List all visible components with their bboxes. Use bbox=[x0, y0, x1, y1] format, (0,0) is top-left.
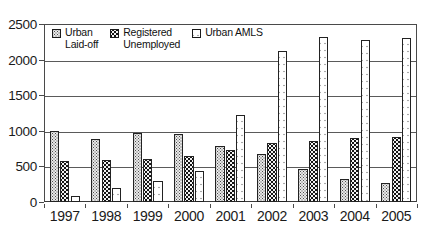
bar-group bbox=[376, 24, 417, 202]
bar bbox=[50, 131, 59, 202]
bar bbox=[298, 169, 307, 202]
x-tick-label: 1997 bbox=[50, 208, 80, 224]
x-tick-label: 2000 bbox=[174, 208, 204, 224]
x-axis: 199719981999200020012002200320042005 bbox=[44, 204, 417, 234]
bar bbox=[361, 40, 370, 202]
bar bbox=[133, 133, 142, 202]
y-tick-mark bbox=[39, 202, 44, 203]
y-tick-label: 2500 bbox=[8, 17, 37, 32]
x-tick-mark bbox=[293, 204, 294, 208]
bar bbox=[236, 115, 245, 202]
bar bbox=[278, 51, 287, 202]
bar-chart: 05001000150020002500 1997199819992000200… bbox=[0, 0, 422, 238]
x-tick-label: 2004 bbox=[340, 208, 370, 224]
x-tick-mark bbox=[44, 204, 45, 208]
y-tick-label: 500 bbox=[15, 159, 37, 174]
white-dotted-swatch bbox=[192, 29, 201, 38]
bar-group bbox=[44, 24, 85, 202]
light-stipple-swatch bbox=[52, 29, 61, 38]
bar-group bbox=[85, 24, 126, 202]
bar bbox=[309, 141, 318, 202]
bar bbox=[257, 154, 266, 202]
bar bbox=[319, 37, 328, 202]
legend-label: Urban Laid-off bbox=[65, 27, 98, 50]
x-tick-mark bbox=[127, 204, 128, 208]
bar-group bbox=[293, 24, 334, 202]
bar-group bbox=[127, 24, 168, 202]
x-tick-label: 2002 bbox=[257, 208, 287, 224]
y-tick-label: 1500 bbox=[8, 88, 37, 103]
bars-layer bbox=[44, 24, 417, 202]
x-tick-mark bbox=[168, 204, 169, 208]
bar bbox=[402, 38, 411, 202]
dark-dotted-swatch bbox=[110, 29, 119, 38]
legend-label: Urban AMLS bbox=[205, 27, 263, 39]
legend-label: Registered Unemployed bbox=[123, 27, 180, 50]
legend-item: Urban Laid-off bbox=[52, 27, 98, 50]
x-tick-mark bbox=[251, 204, 252, 208]
bar-group bbox=[251, 24, 292, 202]
bar bbox=[153, 181, 162, 202]
x-tick-label: 1999 bbox=[133, 208, 163, 224]
bar bbox=[112, 188, 121, 202]
x-tick-mark bbox=[85, 204, 86, 208]
y-tick-label: 2000 bbox=[8, 52, 37, 67]
bar bbox=[381, 183, 390, 202]
bar-group bbox=[168, 24, 209, 202]
x-tick-label: 2003 bbox=[298, 208, 328, 224]
x-tick-mark bbox=[417, 204, 418, 208]
bar bbox=[102, 160, 111, 202]
bar-group bbox=[210, 24, 251, 202]
bar bbox=[143, 159, 152, 202]
bar bbox=[195, 171, 204, 202]
bar bbox=[267, 143, 276, 202]
x-tick-mark bbox=[376, 204, 377, 208]
y-tick-label: 0 bbox=[30, 195, 37, 210]
chart-legend: Urban Laid-offRegistered UnemployedUrban… bbox=[52, 27, 263, 50]
x-tick-mark bbox=[210, 204, 211, 208]
bar bbox=[184, 156, 193, 202]
bar-group bbox=[334, 24, 375, 202]
bar bbox=[60, 161, 69, 202]
legend-item: Registered Unemployed bbox=[110, 27, 180, 50]
bar bbox=[174, 134, 183, 202]
bar bbox=[71, 196, 80, 202]
legend-item: Urban AMLS bbox=[192, 27, 263, 39]
bar bbox=[226, 150, 235, 202]
bar bbox=[215, 146, 224, 202]
y-tick-label: 1000 bbox=[8, 123, 37, 138]
x-tick-label: 2005 bbox=[381, 208, 411, 224]
x-tick-mark bbox=[334, 204, 335, 208]
x-tick-label: 2001 bbox=[216, 208, 246, 224]
bar bbox=[392, 137, 401, 203]
bar bbox=[350, 138, 359, 202]
bar bbox=[340, 179, 349, 202]
x-tick-label: 1998 bbox=[91, 208, 121, 224]
y-axis: 05001000150020002500 bbox=[0, 0, 44, 238]
bar bbox=[91, 139, 100, 202]
